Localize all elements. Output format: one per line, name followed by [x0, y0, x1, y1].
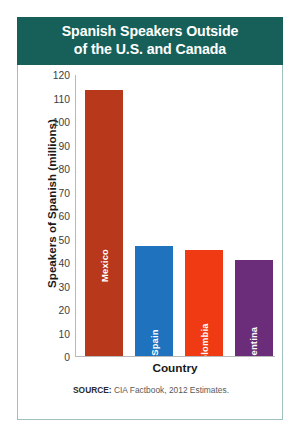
y-axis-tick: 90	[59, 140, 70, 151]
source-label: SOURCE:	[73, 385, 112, 395]
bar-mexico: Mexico	[85, 90, 123, 356]
plot-area: MexicoSpainColombiaArgentina	[75, 75, 275, 357]
bar-spain: Spain	[135, 246, 173, 356]
y-axis-tick: 40	[59, 258, 70, 269]
y-axis-tick-labels: 1201101009080706050403020100	[44, 75, 70, 357]
chart-figure: Spanish Speakers Outside of the U.S. and…	[17, 17, 283, 420]
chart-title-banner: Spanish Speakers Outside of the U.S. and…	[17, 17, 283, 65]
page-title: Spanish Speakers Outside of the U.S. and…	[56, 23, 245, 59]
y-axis-tick: 100	[53, 117, 70, 128]
y-axis-tick: 70	[59, 187, 70, 198]
y-axis-tick: 10	[59, 328, 70, 339]
bar-colombia: Colombia	[185, 250, 223, 356]
x-axis-title: Country	[75, 361, 275, 375]
y-axis-tick: 120	[53, 70, 70, 81]
bar-label: Argentina	[249, 327, 260, 356]
y-axis-tick: 30	[59, 281, 70, 292]
x-axis-line	[75, 356, 275, 357]
y-axis-tick: 50	[59, 234, 70, 245]
y-axis-line	[75, 75, 76, 357]
chart-plot-panel: Speakers of Spanish (millions) 120110100…	[17, 65, 283, 420]
bar-label: Colombia	[199, 323, 210, 356]
source-text: CIA Factbook, 2012 Estimates.	[112, 385, 229, 395]
source-note: SOURCE: CIA Factbook, 2012 Estimates.	[18, 385, 284, 395]
y-axis-tick: 80	[59, 164, 70, 175]
y-axis-tick: 60	[59, 211, 70, 222]
y-axis-tick: 110	[54, 93, 70, 104]
bar-argentina: Argentina	[235, 260, 273, 356]
bar-label: Mexico	[98, 249, 109, 282]
y-axis-tick: 0	[64, 352, 70, 363]
y-axis-tick: 20	[59, 305, 70, 316]
bar-label: Spain	[149, 330, 160, 356]
